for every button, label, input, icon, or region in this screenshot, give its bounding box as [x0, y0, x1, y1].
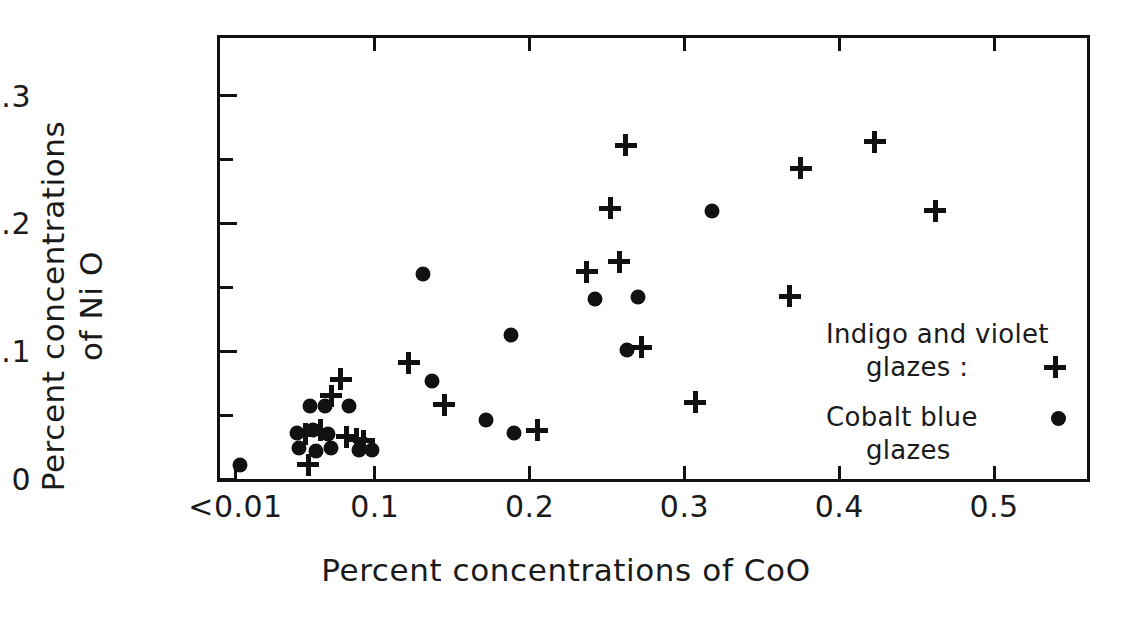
y-axis-tick-label: 0.2 — [0, 206, 31, 241]
x-axis-tick — [683, 466, 686, 479]
legend-dot-marker-icon — [1051, 411, 1066, 426]
y-axis-minor-tick — [220, 414, 233, 417]
data-point-cobalt-blue-glaze — [620, 342, 635, 357]
data-point-indigo-violet-glaze — [433, 394, 455, 416]
x-axis-tick — [528, 466, 531, 479]
y-axis-tick-label: 0.1 — [0, 334, 31, 369]
legend-label-line-2: glazes : — [826, 351, 1076, 384]
data-point-cobalt-blue-glaze — [415, 267, 430, 282]
data-point-cobalt-blue-glaze — [479, 413, 494, 428]
data-point-indigo-violet-glaze — [924, 200, 946, 222]
data-point-cobalt-blue-glaze — [504, 327, 519, 342]
data-point-indigo-violet-glaze — [599, 197, 621, 219]
x-axis-top-tick — [993, 38, 996, 51]
x-axis-top-tick — [683, 38, 686, 51]
data-point-indigo-violet-glaze — [615, 134, 637, 156]
data-point-indigo-violet-glaze — [864, 131, 886, 153]
data-point-cobalt-blue-glaze — [233, 457, 248, 472]
data-point-cobalt-blue-glaze — [305, 423, 320, 438]
data-point-cobalt-blue-glaze — [341, 399, 356, 414]
data-point-cobalt-blue-glaze — [507, 425, 522, 440]
y-axis-title: Percent concentrations of Ni O — [13, 96, 133, 516]
y-axis-tick-label: 0.3 — [0, 78, 31, 113]
legend-plus-marker-icon — [1044, 356, 1066, 378]
data-point-cobalt-blue-glaze — [302, 399, 317, 414]
data-point-cobalt-blue-glaze — [321, 427, 336, 442]
x-axis-tick — [373, 466, 376, 479]
legend-label-line-2: glazes — [826, 434, 1076, 467]
y-axis-minor-tick — [220, 286, 233, 289]
data-point-indigo-violet-glaze — [398, 352, 420, 374]
data-point-indigo-violet-glaze — [779, 285, 801, 307]
data-point-indigo-violet-glaze — [526, 419, 548, 441]
data-point-indigo-violet-glaze — [330, 368, 352, 390]
x-axis-tick-label: 0.2 — [505, 489, 554, 524]
legend-entry: Indigo and violetglazes : — [826, 318, 1076, 385]
x-axis-top-tick — [373, 38, 376, 51]
y-axis-minor-tick — [220, 158, 233, 161]
y-axis-tick — [220, 94, 237, 97]
legend-label-line-1: Indigo and violet — [826, 318, 1076, 351]
data-point-indigo-violet-glaze — [576, 261, 598, 283]
data-point-cobalt-blue-glaze — [318, 399, 333, 414]
y-axis-tick — [220, 222, 237, 225]
data-point-indigo-violet-glaze — [684, 391, 706, 413]
x-axis-tick-label: 0.5 — [969, 489, 1018, 524]
data-point-cobalt-blue-glaze — [308, 443, 323, 458]
y-axis-tick — [220, 350, 237, 353]
data-point-cobalt-blue-glaze — [425, 373, 440, 388]
x-axis-tick-label: 0.4 — [815, 489, 864, 524]
y-axis-tick — [220, 478, 237, 481]
x-axis-tick-label: 0.3 — [660, 489, 709, 524]
legend: Indigo and violetglazes :Cobalt blueglaz… — [826, 318, 1076, 483]
scatter-chart-figure: Percent concentrations of Ni O Percent c… — [0, 0, 1132, 629]
x-axis-tick-label: 0.1 — [350, 489, 399, 524]
data-point-cobalt-blue-glaze — [587, 291, 602, 306]
y-axis-tick-label: 0 — [11, 462, 31, 497]
legend-label-line-1: Cobalt blue — [826, 401, 1076, 434]
x-axis-top-tick — [528, 38, 531, 51]
y-axis-title-line-2: of Ni O — [73, 251, 111, 361]
data-point-cobalt-blue-glaze — [631, 290, 646, 305]
legend-entry: Cobalt blueglazes — [826, 401, 1076, 468]
data-point-cobalt-blue-glaze — [324, 441, 339, 456]
data-point-cobalt-blue-glaze — [364, 442, 379, 457]
x-axis-tick-label: <0.01 — [188, 489, 282, 524]
x-axis-title: Percent concentrations of CoO — [0, 552, 1132, 590]
data-point-cobalt-blue-glaze — [705, 203, 720, 218]
data-point-indigo-violet-glaze — [608, 251, 630, 273]
data-point-cobalt-blue-glaze — [290, 425, 305, 440]
data-point-indigo-violet-glaze — [790, 157, 812, 179]
x-axis-top-tick — [838, 38, 841, 51]
y-axis-title-line-1: Percent concentrations — [35, 121, 73, 492]
data-point-cobalt-blue-glaze — [291, 441, 306, 456]
